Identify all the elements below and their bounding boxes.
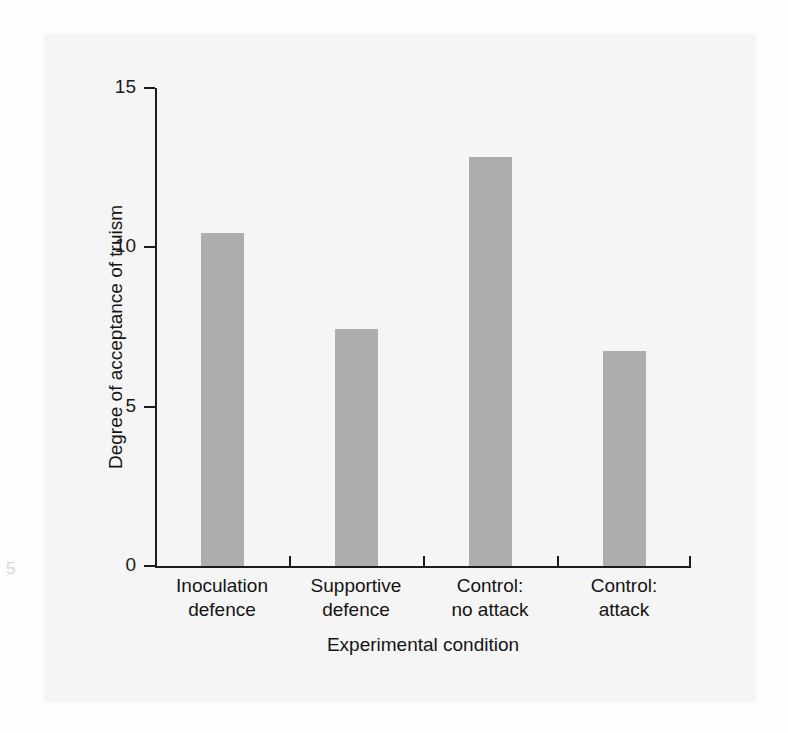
y-axis-line — [155, 88, 157, 568]
y-axis-tick — [144, 246, 155, 248]
x-axis-tick — [289, 556, 291, 568]
bar — [603, 351, 646, 566]
x-axis-tick — [557, 556, 559, 568]
x-category-label-line: Control: — [544, 574, 704, 598]
y-axis-tick-label: 0 — [74, 555, 136, 574]
bar-chart: 5 051015 InoculationdefenceSupportivedef… — [0, 0, 788, 733]
x-category-label-line: attack — [544, 598, 704, 622]
x-axis-end-cap — [689, 556, 691, 568]
y-axis-tick — [144, 406, 155, 408]
x-axis-tick — [423, 556, 425, 568]
x-category-label: Control:attack — [544, 574, 704, 623]
y-axis-tick — [144, 565, 155, 567]
bar — [201, 233, 244, 566]
y-axis-title: Degree of acceptance of truism — [105, 177, 127, 497]
bar — [469, 157, 512, 566]
caption-fragment: 5 — [6, 560, 15, 577]
bar — [335, 329, 378, 566]
y-axis-tick — [144, 87, 155, 89]
x-axis-title: Experimental condition — [155, 634, 691, 656]
y-axis-tick-label: 15 — [74, 77, 136, 96]
figure-root: 5 051015 InoculationdefenceSupportivedef… — [0, 0, 788, 733]
